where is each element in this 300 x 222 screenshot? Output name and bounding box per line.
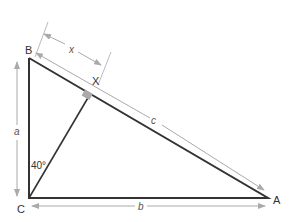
altitude-line <box>29 96 89 198</box>
vertex-a-label: A <box>273 194 281 206</box>
triangle-diagram: B C A X a b c x 40° <box>0 0 300 222</box>
side-a-label: a <box>14 126 20 137</box>
triangle-sides <box>29 58 268 198</box>
vertex-c-label: C <box>17 203 25 215</box>
side-c-label: c <box>151 115 156 126</box>
vertex-x-label: X <box>92 75 100 87</box>
right-angle-marker <box>82 89 93 100</box>
vertex-b-label: B <box>25 44 32 56</box>
x-dimension-arrow <box>44 34 65 44</box>
angle-label: 40° <box>31 160 46 171</box>
side-b-label: b <box>138 201 144 212</box>
diagram-canvas: B C A X a b c x 40° <box>0 0 300 222</box>
side-x-label: x <box>68 44 75 55</box>
